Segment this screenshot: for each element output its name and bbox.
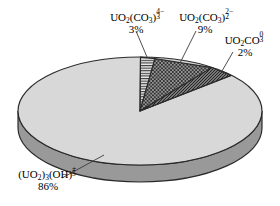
slice-percent-co3-0: 2% — [214, 47, 276, 59]
leader-line-co3-2 — [180, 31, 196, 63]
slice-formula-oh5: (UO2)3(OH)+5 — [2, 167, 94, 181]
slice-formula-co3-2: UO2(CO3)2−2 — [172, 10, 238, 24]
slice-label-co3-3: UO2(CO3)4−3 3% — [101, 10, 171, 36]
slice-label-oh5: (UO2)3(OH)+5 86% — [2, 167, 94, 193]
slice-label-co3-0: UO2CO03 2% — [214, 33, 276, 59]
pie-chart-figure: UO2(CO3)4−3 3% UO2(CO3)2−2 9% UO2CO03 2%… — [0, 0, 280, 206]
slice-percent-co3-3: 3% — [101, 24, 171, 36]
slice-formula-co3-0: UO2CO03 — [214, 33, 276, 47]
slice-label-co3-2: UO2(CO3)2−2 9% — [172, 10, 238, 36]
slice-formula-co3-3: UO2(CO3)4−3 — [101, 10, 171, 24]
slice-percent-oh5: 86% — [2, 181, 94, 193]
